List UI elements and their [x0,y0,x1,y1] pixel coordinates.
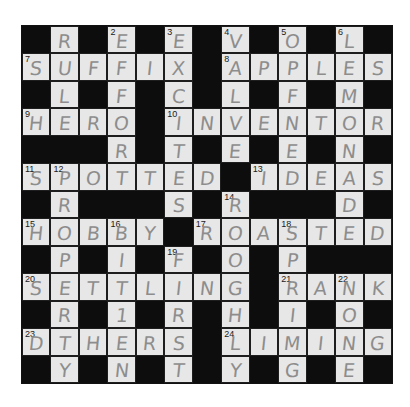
answer-cell[interactable]: 2E [107,26,135,53]
answer-cell[interactable]: 12P [50,163,78,190]
answer-cell[interactable]: 16B [107,218,135,245]
answer-cell[interactable]: R [164,301,192,328]
answer-cell[interactable]: Y [50,356,78,383]
answer-cell[interactable]: X [164,53,192,80]
answer-cell[interactable]: 21R [278,273,306,300]
answer-cell[interactable]: L [221,81,249,108]
answer-cell[interactable]: 4V [221,26,249,53]
answer-cell[interactable]: T [164,136,192,163]
answer-cell[interactable]: E [335,356,363,383]
answer-cell[interactable]: R [364,108,392,135]
answer-cell[interactable]: 5O [278,26,306,53]
answer-cell[interactable]: O [50,218,78,245]
answer-cell[interactable]: O [335,301,363,328]
answer-cell[interactable]: S [364,163,392,190]
answer-cell[interactable]: U [50,53,78,80]
answer-cell[interactable]: A [335,163,363,190]
answer-cell[interactable]: 13I [250,163,278,190]
answer-cell[interactable]: A [307,273,335,300]
answer-cell[interactable]: I [164,273,192,300]
answer-cell[interactable]: 3E [164,26,192,53]
answer-cell[interactable]: N [193,273,221,300]
answer-cell[interactable]: D [364,218,392,245]
answer-cell[interactable]: R [50,191,78,218]
answer-cell[interactable]: E [335,218,363,245]
answer-cell[interactable]: N [335,328,363,355]
answer-cell[interactable]: L [307,53,335,80]
answer-cell[interactable]: 24L [221,328,249,355]
answer-cell[interactable]: P [278,246,306,273]
answer-cell[interactable]: R [107,136,135,163]
answer-cell[interactable]: 18S [278,218,306,245]
answer-cell[interactable]: N [278,108,306,135]
answer-cell[interactable]: 7S [22,53,50,80]
answer-cell[interactable]: D [278,163,306,190]
answer-cell[interactable]: 1 [107,301,135,328]
answer-cell[interactable]: E [50,108,78,135]
answer-cell[interactable]: D [193,163,221,190]
answer-cell[interactable]: I [278,301,306,328]
answer-cell[interactable]: E [107,328,135,355]
answer-cell[interactable]: G [221,273,249,300]
answer-cell[interactable]: P [50,246,78,273]
answer-cell[interactable]: I [250,328,278,355]
answer-cell[interactable]: A [250,218,278,245]
answer-cell[interactable]: T [50,328,78,355]
answer-cell[interactable]: 14R [221,191,249,218]
answer-cell[interactable]: S [164,328,192,355]
answer-cell[interactable]: D [335,191,363,218]
answer-cell[interactable]: Y [221,356,249,383]
answer-cell[interactable]: E [164,163,192,190]
answer-cell[interactable]: R [50,26,78,53]
answer-cell[interactable]: R [136,328,164,355]
answer-cell[interactable]: T [136,163,164,190]
answer-cell[interactable]: E [335,53,363,80]
answer-cell[interactable]: S [164,191,192,218]
answer-cell[interactable]: R [79,108,107,135]
answer-cell[interactable]: E [50,273,78,300]
answer-cell[interactable]: P [278,53,306,80]
answer-cell[interactable]: T [164,356,192,383]
answer-cell[interactable]: K [364,273,392,300]
answer-cell[interactable]: 22N [335,273,363,300]
answer-cell[interactable]: L [50,81,78,108]
answer-cell[interactable]: I [136,53,164,80]
answer-cell[interactable]: L [136,273,164,300]
answer-cell[interactable]: V [221,108,249,135]
answer-cell[interactable]: H [79,328,107,355]
answer-cell[interactable]: N [107,356,135,383]
answer-cell[interactable]: F [79,53,107,80]
answer-cell[interactable]: B [79,218,107,245]
answer-cell[interactable]: 6L [335,26,363,53]
answer-cell[interactable]: R [50,301,78,328]
answer-cell[interactable]: T [307,218,335,245]
answer-cell[interactable]: H [221,301,249,328]
answer-cell[interactable]: E [278,136,306,163]
answer-cell[interactable]: F [107,53,135,80]
answer-cell[interactable]: G [278,356,306,383]
answer-cell[interactable]: O [79,163,107,190]
answer-cell[interactable]: F [278,81,306,108]
answer-cell[interactable]: S [364,53,392,80]
answer-cell[interactable]: E [307,163,335,190]
answer-cell[interactable]: T [107,273,135,300]
answer-cell[interactable]: P [250,53,278,80]
answer-cell[interactable]: 20S [22,273,50,300]
answer-cell[interactable]: O [335,108,363,135]
answer-cell[interactable]: T [307,108,335,135]
answer-cell[interactable]: 8A [221,53,249,80]
answer-cell[interactable]: O [107,108,135,135]
answer-cell[interactable]: Y [136,218,164,245]
answer-cell[interactable]: 11S [22,163,50,190]
answer-cell[interactable]: M [335,81,363,108]
answer-cell[interactable]: G [364,328,392,355]
answer-cell[interactable]: 17R [193,218,221,245]
answer-cell[interactable]: 19F [164,246,192,273]
answer-cell[interactable]: I [307,328,335,355]
answer-cell[interactable]: F [107,81,135,108]
answer-cell[interactable]: T [107,163,135,190]
answer-cell[interactable]: E [221,136,249,163]
answer-cell[interactable]: T [79,273,107,300]
answer-cell[interactable]: 23D [22,328,50,355]
answer-cell[interactable]: N [335,136,363,163]
